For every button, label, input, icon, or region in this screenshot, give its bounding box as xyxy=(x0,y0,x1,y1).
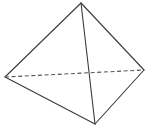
tetrahedron-canvas xyxy=(0,0,146,128)
tetrahedron-figure xyxy=(0,0,146,128)
figure-background xyxy=(0,0,146,128)
